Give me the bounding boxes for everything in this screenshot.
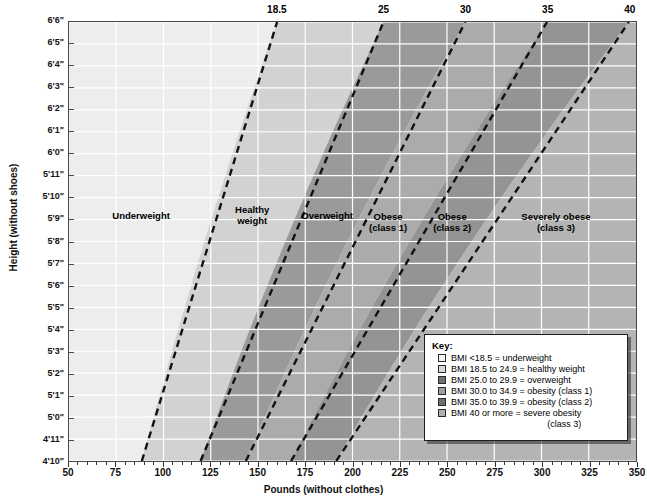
key-item: BMI 35.0 to 39.9 = obesity (class 2) [432, 397, 621, 408]
x-axis-tick-label: 75 [95, 467, 135, 478]
x-axis-minor-tick [390, 462, 391, 465]
x-axis-tick-label: 125 [190, 467, 230, 478]
band-label: Healthyweight [235, 204, 269, 226]
band-label-line: (class 1) [369, 222, 407, 233]
x-axis-minor-tick [609, 462, 610, 465]
y-axis-tick-mark [68, 308, 74, 309]
x-axis-minor-tick [381, 462, 382, 465]
x-axis-minor-tick [153, 462, 154, 465]
x-axis-minor-tick [371, 462, 372, 465]
y-axis-tick-mark [68, 43, 74, 44]
x-axis-minor-tick [134, 462, 135, 465]
band-label-line: Obese [433, 211, 471, 222]
x-axis-minor-tick [334, 462, 335, 465]
y-axis-tick-mark [68, 219, 74, 220]
x-axis-tick-label: 150 [238, 467, 278, 478]
x-axis-minor-tick [428, 462, 429, 465]
y-axis-tick-mark [68, 286, 74, 287]
band-label-line: (class 2) [433, 222, 471, 233]
x-axis-minor-tick [267, 462, 268, 465]
band-label-line: Healthy [235, 204, 269, 215]
y-axis-tick-mark [68, 440, 74, 441]
x-axis-minor-tick [96, 462, 97, 465]
key-color-swatch [438, 354, 446, 362]
x-axis-tick-label: 275 [475, 467, 515, 478]
y-axis-tick-mark [68, 264, 74, 265]
x-axis-minor-tick [144, 462, 145, 465]
x-axis-tick-label: 175 [285, 467, 325, 478]
y-axis-tick-mark [68, 87, 74, 88]
x-axis-minor-tick [106, 462, 107, 465]
key-item-label: BMI 25.0 to 29.9 = overweight [451, 375, 571, 386]
x-axis-minor-tick [523, 462, 524, 465]
key-item: BMI 40 or more = severe obesity(class 3) [432, 408, 621, 429]
y-axis-title: Height (without shoes) [8, 143, 19, 293]
key-item: BMI <18.5 = underweight [432, 353, 621, 364]
y-axis-tick-mark [68, 65, 74, 66]
key-legend: Key: BMI <18.5 = underweightBMI 18.5 to … [424, 334, 628, 441]
x-axis-tick-label: 100 [143, 467, 183, 478]
y-axis-tick-mark [68, 330, 74, 331]
y-axis-tick-mark [68, 153, 74, 154]
x-axis-minor-tick [239, 462, 240, 465]
band-label-line: Underweight [112, 210, 170, 221]
x-axis-minor-tick [457, 462, 458, 465]
x-axis-minor-tick [409, 462, 410, 465]
x-axis-minor-tick [485, 462, 486, 465]
x-axis-title: Pounds (without clothes) [0, 484, 647, 495]
x-axis-minor-tick [504, 462, 505, 465]
key-item-label: BMI 30.0 to 34.9 = obesity (class 1) [451, 386, 592, 397]
x-axis-minor-tick [514, 462, 515, 465]
x-axis-minor-tick [343, 462, 344, 465]
x-axis-minor-tick [561, 462, 562, 465]
y-axis-tick-mark [68, 175, 74, 176]
key-item-label: BMI 35.0 to 39.9 = obesity (class 2) [451, 397, 592, 408]
x-axis-minor-tick [248, 462, 249, 465]
key-title: Key: [432, 340, 621, 351]
x-axis-minor-tick [552, 462, 553, 465]
x-axis-minor-tick [599, 462, 600, 465]
x-axis-tick-label: 350 [617, 467, 647, 478]
x-axis-minor-tick [571, 462, 572, 465]
key-item-label: BMI 18.5 to 24.9 = healthy weight [451, 364, 585, 375]
key-item-label-continued: (class 3) [451, 419, 581, 430]
x-axis-tick-label: 225 [380, 467, 420, 478]
key-color-swatch [438, 376, 446, 384]
band-label: Overweight [301, 210, 353, 221]
x-axis-minor-tick [87, 462, 88, 465]
key-color-swatch [438, 365, 446, 373]
key-item-label: BMI <18.5 = underweight [451, 353, 552, 364]
x-axis-minor-tick [419, 462, 420, 465]
band-label: Severely obese(class 3) [521, 211, 590, 233]
x-axis-tick-label: 250 [427, 467, 467, 478]
y-axis-tick-mark [68, 374, 74, 375]
y-axis-tick-mark [68, 131, 74, 132]
x-axis-minor-tick [628, 462, 629, 465]
y-axis-tick-mark [68, 242, 74, 243]
y-axis-tick-mark [68, 418, 74, 419]
x-axis-minor-tick [362, 462, 363, 465]
x-axis-minor-tick [229, 462, 230, 465]
x-axis-minor-tick [77, 462, 78, 465]
band-label: Obese(class 2) [433, 211, 471, 233]
key-item-label: BMI 40 or more = severe obesity(class 3) [451, 408, 581, 429]
key-item: BMI 18.5 to 24.9 = healthy weight [432, 364, 621, 375]
band-label-line: (class 3) [521, 222, 590, 233]
band-label: Underweight [112, 210, 170, 221]
y-axis-tick-mark [68, 197, 74, 198]
x-axis-tick-label: 325 [570, 467, 610, 478]
key-color-swatch [438, 387, 446, 395]
x-axis-minor-tick [191, 462, 192, 465]
y-axis-tick-mark [68, 396, 74, 397]
y-axis-tick-mark [68, 109, 74, 110]
band-label: Obese(class 1) [369, 211, 407, 233]
x-axis-minor-tick [277, 462, 278, 465]
key-color-swatch [438, 409, 446, 417]
x-axis-minor-tick [438, 462, 439, 465]
key-item-list: BMI <18.5 = underweightBMI 18.5 to 24.9 … [432, 353, 621, 429]
x-axis-minor-tick [618, 462, 619, 465]
y-axis-tick-mark [68, 352, 74, 353]
bmi-chart: 18.525303540 6'6"6'5"6'4"6'3"6'2"6'1"6'0… [0, 0, 647, 501]
x-axis-minor-tick [125, 462, 126, 465]
band-label-line: Overweight [301, 210, 353, 221]
